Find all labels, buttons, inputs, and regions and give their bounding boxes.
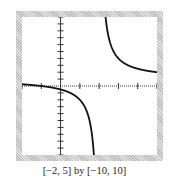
- curve-left-branch: [22, 84, 95, 155]
- plot-area: [22, 17, 157, 155]
- function-graph: [22, 17, 157, 155]
- window-range-caption: [−2, 5] by [−10, 10]: [0, 165, 169, 176]
- curve-right-branch: [105, 17, 157, 72]
